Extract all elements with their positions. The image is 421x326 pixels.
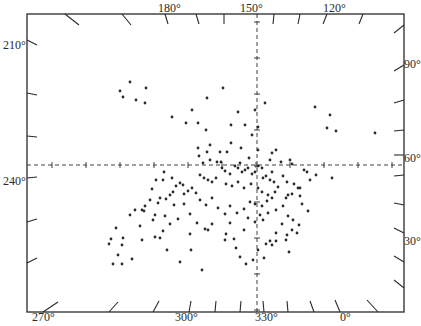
tick-mark bbox=[165, 14, 168, 24]
tick-mark bbox=[394, 100, 404, 103]
data-point bbox=[248, 157, 251, 160]
data-point bbox=[122, 96, 125, 99]
data-point bbox=[314, 106, 317, 109]
data-point bbox=[154, 236, 157, 239]
data-point bbox=[229, 222, 232, 225]
data-point bbox=[240, 147, 243, 150]
tick-mark bbox=[394, 203, 404, 205]
data-point bbox=[122, 237, 125, 240]
data-point bbox=[171, 177, 174, 180]
data-point bbox=[261, 205, 264, 208]
data-point bbox=[134, 209, 137, 212]
data-point bbox=[282, 175, 285, 178]
data-point bbox=[271, 152, 274, 155]
data-point bbox=[254, 171, 257, 174]
data-point bbox=[234, 165, 237, 168]
data-point bbox=[267, 212, 270, 215]
data-point bbox=[237, 111, 240, 114]
data-point bbox=[157, 202, 160, 205]
top-axis-label: 120° bbox=[323, 2, 346, 14]
data-point bbox=[259, 214, 262, 217]
tick-mark bbox=[27, 136, 37, 137]
data-point bbox=[198, 155, 201, 158]
data-point bbox=[263, 257, 266, 260]
data-point bbox=[224, 213, 227, 216]
data-point bbox=[254, 203, 257, 206]
data-point bbox=[282, 205, 285, 208]
tick-mark bbox=[122, 14, 131, 25]
data-point bbox=[267, 194, 270, 197]
top-axis-label: 180° bbox=[158, 2, 181, 14]
data-point bbox=[229, 173, 232, 176]
tick-mark bbox=[27, 93, 37, 95]
data-point bbox=[205, 129, 208, 132]
data-point bbox=[173, 204, 176, 207]
data-point bbox=[262, 219, 265, 222]
data-point bbox=[303, 169, 306, 172]
data-point bbox=[224, 239, 227, 242]
data-point bbox=[169, 194, 172, 197]
data-point bbox=[307, 210, 310, 213]
data-point bbox=[237, 167, 240, 170]
left-axis-label: 210° bbox=[3, 39, 26, 51]
data-point bbox=[215, 177, 218, 180]
data-point bbox=[135, 99, 138, 102]
data-point bbox=[329, 114, 332, 117]
tick-mark bbox=[323, 14, 327, 24]
data-point bbox=[265, 175, 268, 178]
data-point bbox=[197, 122, 200, 125]
data-point bbox=[315, 174, 318, 177]
data-point bbox=[205, 204, 208, 207]
tick-mark bbox=[215, 301, 216, 312]
data-point bbox=[143, 210, 146, 213]
data-point bbox=[286, 234, 289, 237]
data-point bbox=[241, 171, 244, 174]
data-point bbox=[269, 159, 272, 162]
data-point bbox=[149, 199, 152, 202]
right-axis-label: 90° bbox=[404, 58, 421, 70]
scatter-chart bbox=[0, 0, 421, 326]
bottom-axis-label: 300° bbox=[175, 311, 198, 323]
data-point bbox=[261, 167, 264, 170]
data-point bbox=[219, 151, 222, 154]
data-point bbox=[277, 186, 280, 189]
data-point bbox=[183, 193, 186, 196]
tick-mark bbox=[394, 280, 404, 288]
data-point bbox=[183, 203, 186, 206]
data-point bbox=[207, 229, 210, 232]
data-point bbox=[271, 244, 274, 247]
data-point bbox=[145, 87, 148, 90]
data-point bbox=[235, 247, 238, 250]
data-point bbox=[257, 149, 260, 152]
data-point bbox=[152, 219, 155, 222]
data-point bbox=[129, 81, 132, 84]
bottom-axis-label: 330° bbox=[255, 311, 278, 323]
data-point bbox=[229, 205, 232, 208]
data-point bbox=[286, 181, 289, 184]
data-point bbox=[121, 263, 124, 266]
data-point bbox=[155, 179, 158, 182]
bottom-axis-label: 0° bbox=[340, 311, 351, 323]
data-point bbox=[197, 147, 200, 150]
data-point bbox=[275, 240, 278, 243]
tick-mark bbox=[394, 25, 404, 33]
axis-ticks bbox=[27, 14, 404, 312]
data-point bbox=[292, 219, 295, 222]
data-point bbox=[139, 225, 142, 228]
data-point bbox=[250, 183, 253, 186]
data-point bbox=[190, 249, 193, 252]
data-point bbox=[224, 170, 227, 173]
data-point bbox=[288, 251, 291, 254]
data-point bbox=[119, 90, 122, 93]
data-point bbox=[289, 159, 292, 162]
data-point bbox=[162, 179, 165, 182]
tick-mark bbox=[298, 14, 300, 24]
data-point bbox=[251, 134, 254, 137]
data-point bbox=[220, 161, 223, 164]
data-point bbox=[209, 144, 212, 147]
data-point bbox=[187, 190, 190, 193]
data-point bbox=[298, 224, 301, 227]
tick-mark bbox=[394, 175, 404, 176]
data-point bbox=[252, 259, 255, 262]
data-point bbox=[245, 263, 248, 266]
